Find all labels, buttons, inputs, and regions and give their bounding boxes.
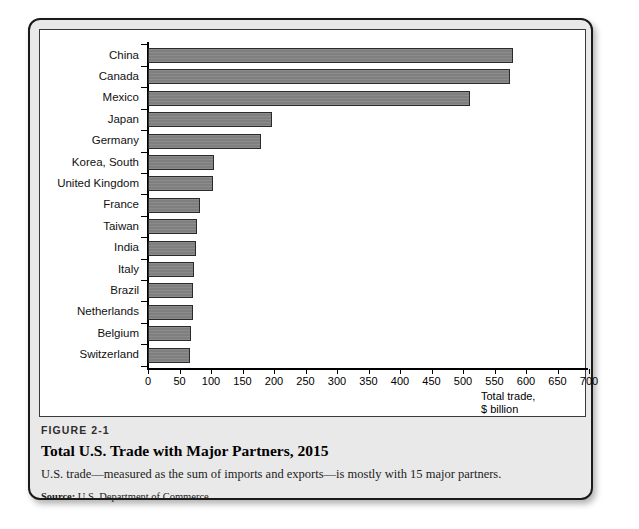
bar-france [148,198,200,213]
x-axis-tick [495,369,496,374]
y-axis-tick [141,194,147,195]
x-axis-tick [306,369,307,374]
y-axis-tick [141,323,147,324]
bar-united-kingdom [148,176,213,191]
figure-container: ChinaCanadaMexicoJapanGermanyKorea, Sout… [28,18,593,500]
category-label: Belgium [97,328,139,340]
x-axis-line [147,368,588,370]
category-label: Japan [108,114,139,126]
bar-row: Japan [148,112,272,127]
category-label: China [109,50,139,62]
category-label: Korea, South [72,157,139,169]
figure-title: Total U.S. Trade with Major Partners, 20… [41,442,584,460]
bar-taiwan [148,219,197,234]
bar-row: Canada [148,69,510,84]
y-axis-tick [141,173,147,174]
bar-row: Taiwan [148,219,197,234]
x-axis-tick-label: 700 [569,375,609,387]
x-axis-unit-label: Total trade, $ billion [481,390,535,416]
category-label: Italy [118,264,139,276]
x-axis-tick [558,369,559,374]
bar-row: China [148,48,513,63]
y-axis-tick [141,301,147,302]
x-axis-tick [211,369,212,374]
y-axis-tick [141,87,147,88]
bar-row: Netherlands [148,305,193,320]
x-axis-tick [400,369,401,374]
y-axis-tick [141,216,147,217]
x-axis-unit-line-1: Total trade, [481,390,535,403]
y-axis-tick [141,152,147,153]
x-axis-tick [463,369,464,374]
y-axis-tick [141,66,147,67]
x-axis-unit-line-2: $ billion [481,403,535,416]
bar-netherlands [148,305,193,320]
chart-plot-panel: ChinaCanadaMexicoJapanGermanyKorea, Sout… [39,29,586,417]
x-axis-tick [526,369,527,374]
y-axis-tick [141,366,147,367]
x-axis-tick [432,369,433,374]
category-label: Brazil [110,285,139,297]
figure-source: Source: U.S. Department of Commerce. [41,491,584,502]
bar-canada [148,69,510,84]
bar-india [148,241,196,256]
y-axis-tick [141,237,147,238]
x-axis-tick [369,369,370,374]
figure-number: FIGURE 2-1 [41,424,584,436]
y-axis-tick [141,109,147,110]
bar-belgium [148,326,191,341]
category-label: Germany [92,135,139,147]
category-label: India [114,242,139,254]
x-axis-tick [589,369,590,374]
bar-row: France [148,198,200,213]
chart-plot-area: ChinaCanadaMexicoJapanGermanyKorea, Sout… [40,30,585,416]
x-axis-tick [274,369,275,374]
figure-caption: FIGURE 2-1 Total U.S. Trade with Major P… [39,424,586,502]
bar-row: Switzerland [148,348,190,363]
y-axis-tick [141,259,147,260]
x-axis-tick [243,369,244,374]
y-axis-tick [141,344,147,345]
category-label: Switzerland [80,349,139,361]
category-label: Netherlands [77,306,139,318]
bar-japan [148,112,272,127]
bar-row: Mexico [148,91,470,106]
bar-korea-south [148,155,214,170]
bar-row: Brazil [148,283,193,298]
category-label: Taiwan [103,221,139,233]
bar-row: Italy [148,262,194,277]
figure-description: U.S. trade—measured as the sum of import… [41,467,584,482]
bar-row: Korea, South [148,155,214,170]
category-label: Mexico [103,92,139,104]
bar-row: Germany [148,134,261,149]
category-label: United Kingdom [57,178,139,190]
source-label: Source: [41,491,75,502]
source-text: U.S. Department of Commerce. [78,491,212,502]
bar-italy [148,262,194,277]
bar-switzerland [148,348,190,363]
x-axis-tick [180,369,181,374]
bar-row: United Kingdom [148,176,213,191]
y-axis-tick [141,44,147,45]
x-axis-tick [337,369,338,374]
y-axis-tick [141,280,147,281]
x-axis-tick [148,369,149,374]
bar-mexico [148,91,470,106]
bar-china [148,48,513,63]
category-label: Canada [99,71,139,83]
bar-germany [148,134,261,149]
y-axis-tick [141,130,147,131]
bar-row: India [148,241,196,256]
bar-brazil [148,283,193,298]
bar-row: Belgium [148,326,191,341]
category-label: France [103,199,139,211]
